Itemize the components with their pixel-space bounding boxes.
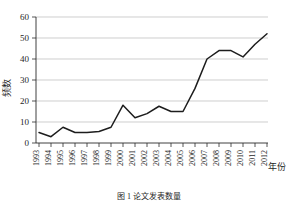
xtick-label-2006: 2006 xyxy=(188,150,197,166)
data-series-line xyxy=(39,34,267,137)
xtick-label-2001: 2001 xyxy=(128,150,137,166)
line-chart: 60 50 40 30 20 10 0 频数 xyxy=(0,0,298,205)
xtick-label-2011: 2011 xyxy=(248,150,257,166)
gridlines xyxy=(36,17,268,122)
ytick-label-50: 50 xyxy=(20,33,30,43)
xtick-label-2008: 2008 xyxy=(212,150,221,166)
ytick-label-60: 60 xyxy=(20,12,30,22)
xtick-label-2007: 2007 xyxy=(200,150,209,166)
xtick-label-2010: 2010 xyxy=(236,150,245,166)
xtick-label-1995: 1995 xyxy=(56,150,65,166)
xtick-label-1998: 1998 xyxy=(92,150,101,166)
ytick-label-20: 20 xyxy=(20,96,30,106)
y-axis-title: 频数 xyxy=(1,79,12,97)
xtick-label-2002: 2002 xyxy=(140,150,149,166)
y-tick-labels: 60 50 40 30 20 10 0 xyxy=(20,12,30,148)
xtick-label-2005: 2005 xyxy=(176,150,185,166)
xtick-label-2004: 2004 xyxy=(164,150,173,166)
xtick-label-1996: 1996 xyxy=(68,150,77,166)
figure-caption: 图 1 论文发表数量 xyxy=(117,191,181,201)
ytick-label-30: 30 xyxy=(20,75,30,85)
xtick-label-1997: 1997 xyxy=(80,150,89,166)
ytick-label-40: 40 xyxy=(20,54,30,64)
xtick-label-1993: 1993 xyxy=(32,150,41,166)
figure-container: 60 50 40 30 20 10 0 频数 xyxy=(0,0,298,205)
y-axis-ticks xyxy=(32,17,36,143)
ytick-label-10: 10 xyxy=(20,117,30,127)
xtick-label-1999: 1999 xyxy=(104,150,113,166)
xtick-label-1994: 1994 xyxy=(44,150,53,166)
ytick-label-0: 0 xyxy=(25,138,30,148)
xtick-label-2000: 2000 xyxy=(116,150,125,166)
x-tick-labels: 1993 1994 1995 1996 1997 1998 1999 2000 … xyxy=(32,150,269,166)
xtick-label-2009: 2009 xyxy=(224,150,233,166)
x-axis-title: 年份 xyxy=(268,161,286,172)
x-axis-ticks xyxy=(39,143,267,147)
xtick-label-2003: 2003 xyxy=(152,150,161,166)
